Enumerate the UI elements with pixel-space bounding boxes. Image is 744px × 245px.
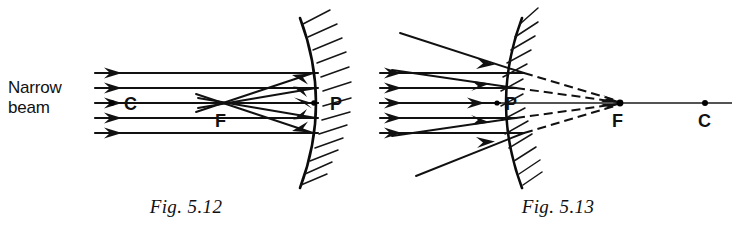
virtual-focus-dot (617, 100, 624, 107)
label-F-convex: F (612, 111, 623, 131)
caption-fig-5-13: Fig. 5.13 (372, 196, 744, 218)
label-P-convex: P (505, 94, 517, 114)
figure-5-13: P F C Fig. 5.13 (372, 0, 744, 245)
narrow-beam-label-line1: Narrow (8, 78, 100, 98)
centre-of-curvature-dot (109, 100, 115, 106)
caption-fig-5-12: Fig. 5.12 (0, 196, 372, 218)
label-F-concave: F (215, 111, 226, 131)
label-C-concave: C (124, 94, 137, 114)
figure-page: C F P Narrow beam Fig. 5.12 (0, 0, 744, 245)
centre-of-curvature-dot-convex (702, 100, 708, 106)
pole-dot (311, 100, 317, 106)
pole-dot-convex (494, 100, 499, 105)
figure-5-12: C F P Narrow beam Fig. 5.12 (0, 0, 372, 245)
label-C-convex: C (698, 111, 711, 131)
label-P-concave: P (330, 94, 342, 114)
narrow-beam-label: Narrow beam (8, 78, 100, 118)
narrow-beam-label-line2: beam (8, 98, 100, 118)
